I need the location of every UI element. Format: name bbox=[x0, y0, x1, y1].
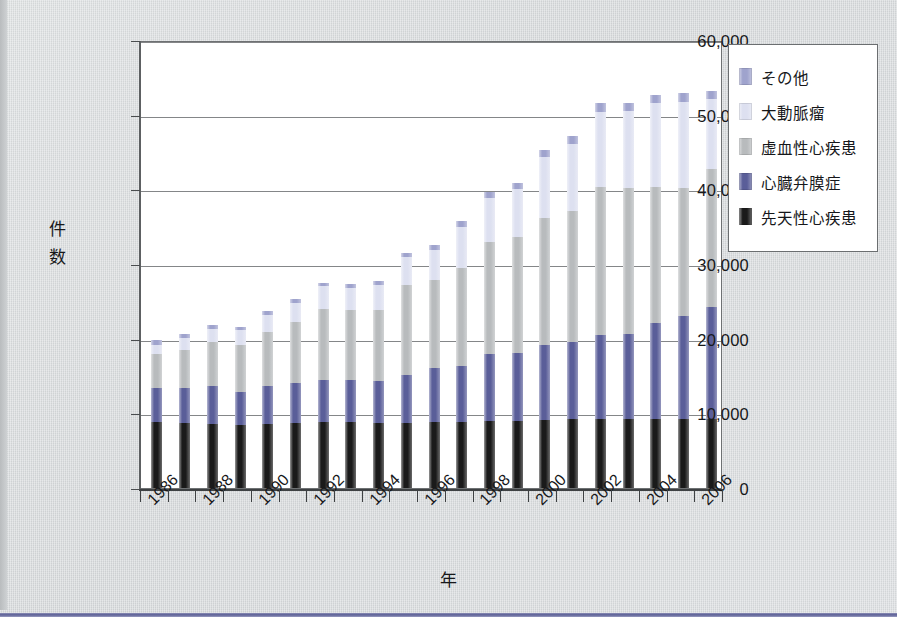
y-axis-title-char: 件 bbox=[43, 216, 71, 244]
bar-segment bbox=[595, 335, 606, 419]
bar-segment bbox=[567, 419, 578, 488]
bar-segment bbox=[318, 286, 329, 308]
gridline bbox=[141, 117, 721, 118]
bar-segment bbox=[179, 423, 190, 488]
bar-segment bbox=[595, 103, 606, 112]
bar-segment bbox=[484, 198, 495, 243]
bar-2001 bbox=[567, 136, 578, 488]
x-axis-tick bbox=[473, 489, 474, 502]
bar-segment bbox=[650, 95, 661, 103]
bar-segment bbox=[207, 386, 218, 423]
bar-segment bbox=[151, 354, 162, 388]
bar-segment bbox=[179, 350, 190, 388]
x-axis-tick bbox=[722, 489, 723, 502]
bar-segment bbox=[456, 268, 467, 367]
bar-segment bbox=[429, 368, 440, 423]
bar-segment bbox=[512, 353, 523, 421]
x-axis-tick bbox=[694, 489, 695, 502]
legend-label: その他 bbox=[761, 66, 809, 88]
bar-segment bbox=[456, 366, 467, 421]
y-axis-tick-label: 10,000 bbox=[697, 405, 749, 424]
legend-swatch bbox=[739, 68, 752, 85]
bar-segment bbox=[179, 338, 190, 350]
bar-segment bbox=[678, 316, 689, 419]
y-axis-tick-label: 30,000 bbox=[697, 256, 749, 275]
bar-segment bbox=[567, 342, 578, 420]
bar-segment bbox=[429, 250, 440, 281]
bar-segment bbox=[539, 157, 550, 217]
bar-2004 bbox=[650, 95, 661, 488]
x-axis-tick bbox=[334, 489, 335, 502]
bar-1996 bbox=[429, 245, 440, 488]
bar-segment bbox=[207, 325, 218, 329]
bar-segment bbox=[290, 299, 301, 303]
legend-swatch bbox=[739, 138, 752, 155]
x-axis-title: 年 bbox=[0, 566, 897, 591]
bar-segment bbox=[235, 392, 246, 424]
bar-segment bbox=[456, 221, 467, 226]
bar-segment bbox=[567, 144, 578, 211]
bar-segment bbox=[262, 311, 273, 315]
bar-segment bbox=[484, 354, 495, 421]
bar-1991 bbox=[290, 299, 301, 488]
legend-label: 心臓弁膜症 bbox=[761, 171, 841, 193]
bar-segment bbox=[595, 112, 606, 187]
bar-2002 bbox=[595, 103, 606, 488]
bar-segment bbox=[207, 342, 218, 386]
bar-segment bbox=[650, 187, 661, 323]
bar-segment bbox=[484, 192, 495, 197]
legend-item: 大動脈瘤 bbox=[739, 94, 877, 129]
bar-segment bbox=[235, 425, 246, 488]
x-axis-tick bbox=[667, 489, 668, 502]
bar-segment bbox=[262, 386, 273, 423]
bar-1993 bbox=[345, 284, 356, 488]
bar-segment bbox=[567, 136, 578, 143]
scan-left-edge bbox=[0, 0, 7, 610]
bar-1998 bbox=[484, 192, 495, 488]
y-axis-tick bbox=[131, 41, 140, 42]
legend-swatch bbox=[739, 208, 752, 225]
x-axis-tick bbox=[611, 489, 612, 502]
bar-segment bbox=[456, 227, 467, 268]
bar-segment bbox=[373, 381, 384, 423]
bar-segment bbox=[235, 345, 246, 392]
bar-segment bbox=[484, 242, 495, 353]
bar-segment bbox=[706, 307, 717, 418]
bar-segment bbox=[539, 150, 550, 157]
x-axis-tick bbox=[556, 489, 557, 502]
legend-item: その他 bbox=[739, 59, 877, 94]
bar-1987 bbox=[179, 334, 190, 488]
legend-item: 虚血性心疾患 bbox=[739, 129, 877, 164]
bar-segment bbox=[456, 422, 467, 488]
bar-2006 bbox=[706, 91, 717, 488]
bar-segment bbox=[290, 322, 301, 382]
bar-segment bbox=[345, 380, 356, 423]
x-axis-tick bbox=[168, 489, 169, 502]
bar-1995 bbox=[401, 253, 412, 488]
x-axis-tick bbox=[500, 489, 501, 502]
x-axis-tick bbox=[389, 489, 390, 502]
bar-segment bbox=[262, 315, 273, 332]
y-axis-tick-label: 0 bbox=[740, 480, 749, 499]
x-axis-tick bbox=[417, 489, 418, 502]
bar-segment bbox=[401, 285, 412, 375]
legend: その他大動脈瘤虚血性心疾患心臓弁膜症先天性心疾患 bbox=[728, 44, 878, 252]
bar-segment bbox=[429, 245, 440, 249]
gridline bbox=[141, 191, 721, 192]
bar-segment bbox=[706, 91, 717, 99]
bar-segment bbox=[623, 188, 634, 334]
bar-segment bbox=[512, 421, 523, 488]
bar-segment bbox=[401, 375, 412, 424]
bar-segment bbox=[373, 310, 384, 382]
bar-segment bbox=[623, 111, 634, 188]
y-axis-tick bbox=[131, 414, 140, 415]
bar-segment bbox=[207, 329, 218, 342]
bar-segment bbox=[262, 332, 273, 387]
y-axis-tick bbox=[131, 265, 140, 266]
bar-segment bbox=[179, 388, 190, 423]
bar-segment bbox=[401, 423, 412, 488]
bar-segment bbox=[290, 383, 301, 423]
bar-segment bbox=[512, 237, 523, 353]
legend-item: 先天性心疾患 bbox=[739, 199, 877, 234]
bar-segment bbox=[678, 188, 689, 316]
